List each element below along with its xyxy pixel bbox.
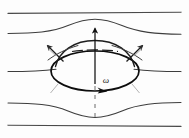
rotating-body-field-line-diagram: ω xyxy=(0,0,189,138)
figure-container: ω xyxy=(0,0,189,138)
omega-label: ω xyxy=(103,75,109,85)
